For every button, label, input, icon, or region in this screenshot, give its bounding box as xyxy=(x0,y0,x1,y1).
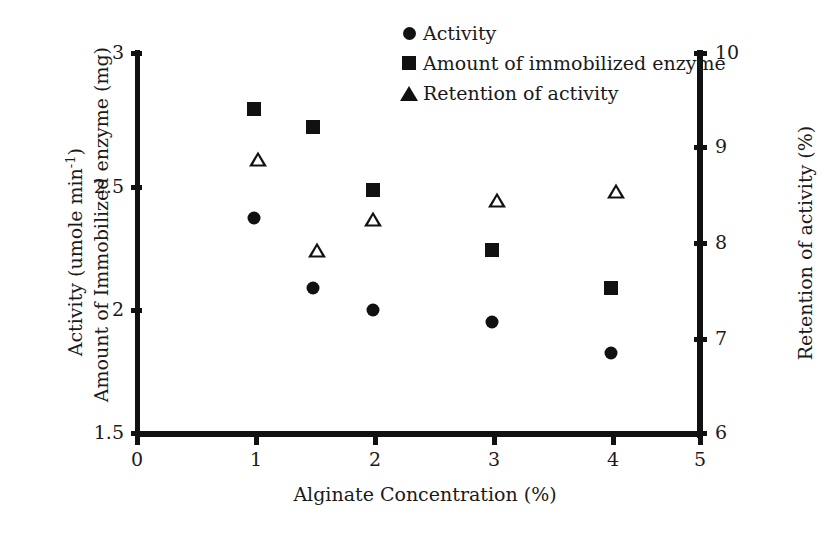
x-tick-label: 4 xyxy=(583,450,643,469)
y-left-tick-mark xyxy=(131,51,142,56)
x-axis-line xyxy=(135,431,703,437)
data-point-circle xyxy=(307,282,320,295)
legend-label: Activity xyxy=(423,22,496,44)
y-axis-left-line xyxy=(135,50,140,438)
y-right-tick-mark xyxy=(694,337,707,342)
y-right-tick-label: 6 xyxy=(715,423,785,442)
data-point-circle xyxy=(605,347,618,360)
y-axis-left-title: Activity (umole min-1) Amount of Immobil… xyxy=(58,102,114,402)
data-point-square xyxy=(485,243,499,257)
y-left-tick-label: 1.5 xyxy=(54,423,124,442)
open-triangle-icon xyxy=(398,86,420,101)
filled-square-icon xyxy=(398,56,420,70)
data-point-square xyxy=(306,120,320,134)
data-point-circle xyxy=(248,212,261,225)
x-tick-mark xyxy=(373,434,378,445)
legend-label: Retention of activity xyxy=(423,82,618,104)
y-right-tick-label: 9 xyxy=(715,137,785,156)
x-tick-label: 5 xyxy=(670,450,730,469)
x-axis-title: Alginate Concentration (%) xyxy=(235,483,615,505)
y-right-tick-mark xyxy=(694,145,707,150)
data-point-square xyxy=(366,183,380,197)
data-point-triangle xyxy=(488,193,506,208)
y-axis-left-title-line1: Activity (umole min-1) xyxy=(58,102,88,402)
y-axis-right-title: Retention of activity (%) xyxy=(794,93,816,393)
data-point-circle xyxy=(367,304,380,317)
data-point-triangle xyxy=(364,212,382,227)
y-left-tick-mark xyxy=(131,308,142,313)
x-tick-label: 2 xyxy=(345,450,405,469)
y-left-tick-mark xyxy=(131,185,142,190)
data-point-square xyxy=(247,102,261,116)
y-right-tick-mark xyxy=(694,241,707,246)
data-point-triangle xyxy=(249,152,267,167)
legend-item-amount-immobilized-enzyme: Amount of immobilized enzyme xyxy=(398,48,726,78)
x-tick-mark xyxy=(135,434,140,445)
data-point-triangle xyxy=(308,243,326,258)
legend-item-retention-of-activity: Retention of activity xyxy=(398,78,726,108)
y-right-tick-label: 7 xyxy=(715,329,785,348)
superscript-minus-one: -1 xyxy=(63,155,78,168)
chart-legend: Activity Amount of immobilized enzyme Re… xyxy=(398,18,726,108)
legend-label: Amount of immobilized enzyme xyxy=(423,52,726,74)
y-axis-left-title-line2: Amount of Immobilized enzyme (mg) xyxy=(88,102,114,402)
x-tick-mark xyxy=(698,434,703,445)
x-tick-label: 1 xyxy=(226,450,286,469)
x-tick-label: 3 xyxy=(464,450,524,469)
data-point-triangle xyxy=(607,184,625,199)
data-point-square xyxy=(604,281,618,295)
x-tick-mark xyxy=(254,434,259,445)
x-tick-label: 0 xyxy=(107,450,167,469)
data-point-circle xyxy=(486,316,499,329)
y-right-tick-label: 8 xyxy=(715,233,785,252)
x-tick-mark xyxy=(611,434,616,445)
scatter-chart-figure: 3 2.5 2 1.5 10 9 8 7 6 0 1 2 3 4 5 Activ… xyxy=(0,0,833,538)
x-tick-mark xyxy=(492,434,497,445)
legend-item-activity: Activity xyxy=(398,18,726,48)
